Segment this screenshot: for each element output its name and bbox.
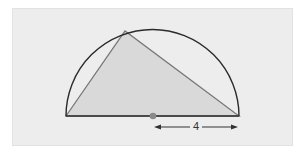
radius-label: 4 — [191, 121, 201, 132]
center-dot — [150, 113, 157, 120]
inscribed-triangle — [66, 31, 239, 116]
semicircle-diagram — [0, 0, 299, 155]
